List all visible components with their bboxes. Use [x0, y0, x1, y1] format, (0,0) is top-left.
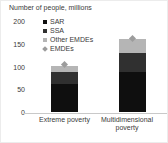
square-swatch-icon [43, 38, 47, 42]
y-axis-tick-label: 100 [3, 63, 25, 72]
bar-segment-sar [51, 84, 78, 113]
chart-legend: SARSSAOther EMDEsEMDEs [43, 17, 93, 53]
y-axis-tick-label: 150 [3, 40, 25, 49]
square-swatch-icon [43, 29, 47, 33]
legend-item-emdes: EMDEs [43, 44, 93, 53]
legend-label: Other EMDEs [50, 35, 93, 44]
bar-segment-ssa [119, 53, 146, 71]
bar-segment-sar [119, 72, 146, 113]
chart-figure: Number of people, millions SARSSAOther E… [0, 0, 168, 143]
y-axis-tick-label: 0 [3, 108, 25, 117]
diamond-swatch-icon [42, 46, 48, 52]
y-axis-tick-label: 200 [3, 17, 25, 26]
x-axis-baseline [24, 113, 167, 114]
legend-label: SSA [50, 26, 64, 35]
chart-title: Number of people, millions [9, 3, 92, 12]
legend-item-other-emdes: Other EMDEs [43, 35, 93, 44]
square-swatch-icon [43, 20, 47, 24]
legend-label: EMDEs [50, 44, 74, 53]
y-axis-tick-label: 50 [3, 85, 25, 94]
legend-label: SAR [50, 17, 64, 26]
legend-item-ssa: SSA [43, 26, 93, 35]
legend-item-sar: SAR [43, 17, 93, 26]
bar-segment-ssa [51, 72, 78, 84]
x-axis-category-label: Extreme poverty [25, 116, 105, 124]
x-axis-category-label: Multidimensional poverty [95, 116, 159, 132]
